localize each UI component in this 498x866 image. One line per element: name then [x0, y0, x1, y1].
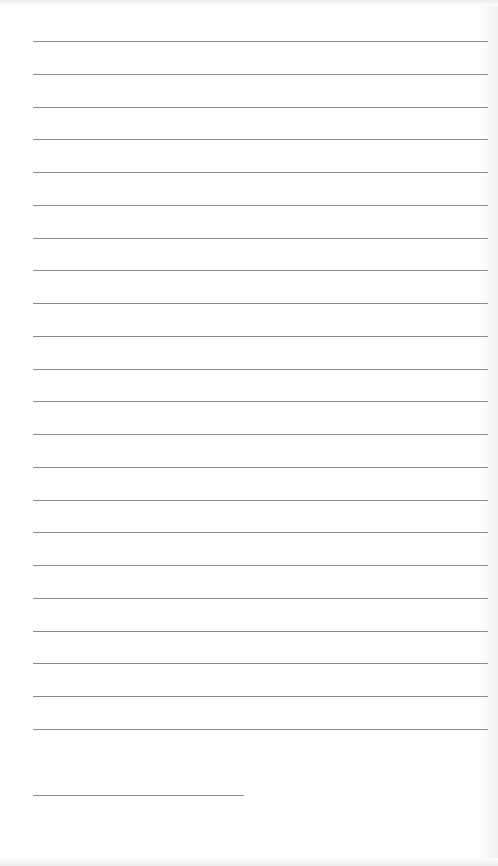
- lined-paper-page: [0, 0, 498, 866]
- short-ruled-line: [33, 795, 244, 796]
- ruled-line: [33, 729, 488, 730]
- ruled-line: [33, 369, 488, 370]
- ruled-line: [33, 532, 488, 533]
- ruled-line: [33, 107, 488, 108]
- ruled-line: [33, 434, 488, 435]
- ruled-line: [33, 467, 488, 468]
- ruled-line: [33, 270, 488, 271]
- ruled-line: [33, 172, 488, 173]
- bottom-edge-shadow: [0, 858, 498, 866]
- ruled-line: [33, 663, 488, 664]
- ruled-line: [33, 205, 488, 206]
- ruled-line: [33, 696, 488, 697]
- ruled-line: [33, 41, 488, 42]
- ruled-line: [33, 631, 488, 632]
- ruled-line: [33, 598, 488, 599]
- ruled-line: [33, 500, 488, 501]
- ruled-line: [33, 303, 488, 304]
- ruled-line: [33, 336, 488, 337]
- ruled-line: [33, 139, 488, 140]
- ruled-line: [33, 74, 488, 75]
- ruled-line: [33, 401, 488, 402]
- top-edge-shadow: [0, 0, 498, 6]
- ruled-line: [33, 238, 488, 239]
- ruled-line: [33, 565, 488, 566]
